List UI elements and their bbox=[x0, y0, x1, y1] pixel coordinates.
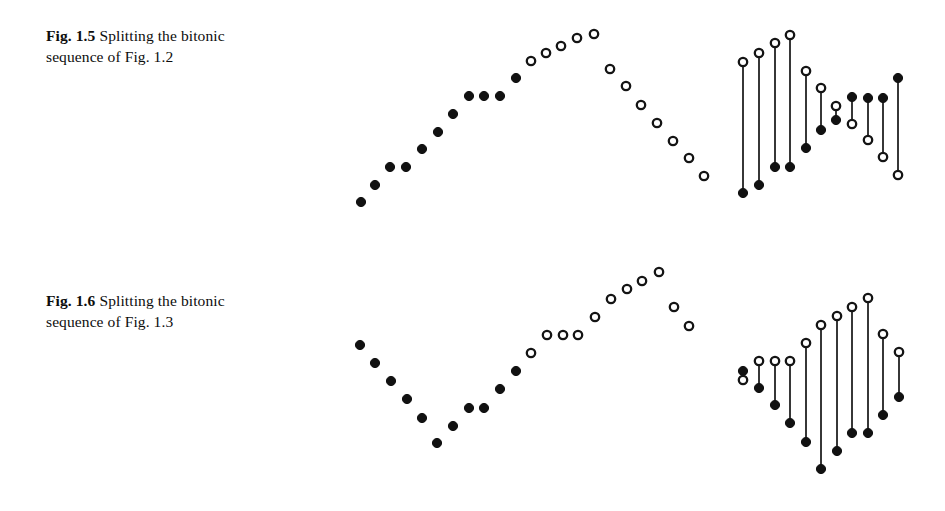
stem-6 bbox=[832, 312, 841, 456]
data-point-filled-0 bbox=[356, 197, 365, 206]
stem-5 bbox=[816, 84, 825, 135]
stem-bottom-marker-10 bbox=[894, 392, 903, 401]
data-point-filled-2 bbox=[385, 162, 394, 171]
stem-bottom-marker-8 bbox=[864, 136, 872, 144]
stem-bottom-marker-9 bbox=[878, 410, 887, 419]
stem-top-marker-1 bbox=[755, 49, 763, 57]
data-point-open-6 bbox=[622, 82, 630, 90]
stem-top-marker-6 bbox=[832, 102, 840, 110]
stem-top-marker-7 bbox=[848, 303, 856, 311]
stem-bottom-marker-5 bbox=[816, 125, 825, 134]
data-point-open-8 bbox=[653, 119, 661, 127]
stem-bottom-marker-4 bbox=[801, 437, 810, 446]
figure-1-6-caption-line-2: sequence of Fig. 1.3 bbox=[46, 313, 173, 330]
stem-9 bbox=[878, 93, 887, 161]
stem-top-marker-2 bbox=[771, 357, 779, 365]
figure-1-6-stem-canvas bbox=[720, 256, 920, 511]
figure-page: Fig. 1.5 Splitting the bitonic sequence … bbox=[0, 0, 945, 511]
stem-bottom-marker-1 bbox=[754, 383, 763, 392]
data-point-open-3 bbox=[574, 331, 582, 339]
figure-1-6-scatter-canvas bbox=[340, 256, 720, 511]
data-point-filled-5 bbox=[448, 421, 457, 430]
figure-1-5-label: Fig. 1.5 bbox=[46, 27, 95, 44]
stem-3 bbox=[785, 357, 794, 428]
stem-bottom-marker-7 bbox=[848, 120, 856, 128]
data-point-filled-7 bbox=[464, 91, 473, 100]
series-open bbox=[527, 30, 708, 180]
data-point-filled-8 bbox=[479, 403, 488, 412]
data-point-filled-6 bbox=[448, 109, 457, 118]
data-point-filled-3 bbox=[401, 162, 410, 171]
figure-1-5-caption-line-1: Splitting the bitonic bbox=[99, 27, 224, 44]
data-point-open-4 bbox=[590, 30, 598, 38]
data-point-open-0 bbox=[527, 349, 535, 357]
data-point-open-9 bbox=[669, 137, 677, 145]
stem-top-marker-0 bbox=[739, 58, 747, 66]
stem-bottom-marker-10 bbox=[894, 171, 902, 179]
figure-1-5-stem-plot bbox=[720, 0, 920, 256]
stem-bottom-marker-5 bbox=[816, 464, 825, 473]
figure-1-5-scatter-plot bbox=[340, 0, 720, 256]
data-point-open-10 bbox=[685, 154, 693, 162]
stem-top-marker-8 bbox=[863, 93, 872, 102]
stem-top-marker-6 bbox=[833, 312, 841, 320]
data-point-filled-7 bbox=[464, 403, 473, 412]
stem-top-marker-1 bbox=[755, 357, 763, 365]
stem-6 bbox=[831, 102, 840, 125]
stem-bottom-marker-6 bbox=[831, 115, 840, 124]
stem-top-marker-10 bbox=[895, 348, 903, 356]
series-filled bbox=[355, 340, 520, 447]
data-point-open-8 bbox=[655, 268, 663, 276]
stem-bottom-marker-0 bbox=[738, 188, 747, 197]
stem-bottom-marker-4 bbox=[801, 143, 810, 152]
stem-top-marker-4 bbox=[802, 339, 810, 347]
stem-top-marker-9 bbox=[879, 330, 887, 338]
stem-top-marker-3 bbox=[786, 357, 794, 365]
data-point-filled-9 bbox=[495, 91, 504, 100]
data-point-open-5 bbox=[607, 295, 615, 303]
stem-0 bbox=[738, 58, 747, 198]
stem-top-marker-4 bbox=[802, 67, 810, 75]
stem-bottom-marker-1 bbox=[754, 180, 763, 189]
data-point-open-6 bbox=[623, 285, 631, 293]
data-point-filled-1 bbox=[370, 358, 379, 367]
stem-9 bbox=[878, 330, 887, 420]
stem-top-marker-9 bbox=[878, 93, 887, 102]
figure-1-5-stem-canvas bbox=[720, 0, 920, 256]
data-point-open-1 bbox=[542, 49, 550, 57]
figure-1-6-stem-plot bbox=[720, 256, 920, 511]
data-point-filled-5 bbox=[433, 127, 442, 136]
stem-4 bbox=[801, 67, 810, 153]
stem-top-marker-2 bbox=[771, 39, 779, 47]
data-point-open-11 bbox=[700, 172, 708, 180]
stem-0 bbox=[738, 366, 747, 384]
stem-3 bbox=[785, 31, 794, 172]
data-point-filled-6 bbox=[432, 438, 441, 447]
stem-bottom-marker-3 bbox=[785, 162, 794, 171]
stem-bottom-marker-3 bbox=[785, 418, 794, 427]
figure-1-6-scatter-plot bbox=[340, 256, 720, 511]
series-open bbox=[527, 268, 693, 357]
figure-1-5-caption-line-2: sequence of Fig. 1.2 bbox=[46, 48, 173, 65]
data-point-filled-10 bbox=[511, 73, 520, 82]
data-point-filled-10 bbox=[511, 366, 520, 375]
data-point-open-7 bbox=[638, 277, 646, 285]
stem-bottom-marker-8 bbox=[863, 428, 872, 437]
stem-2 bbox=[770, 357, 779, 410]
data-point-filled-4 bbox=[417, 413, 426, 422]
data-point-open-2 bbox=[557, 42, 565, 50]
stem-8 bbox=[863, 294, 872, 438]
data-point-open-7 bbox=[637, 101, 645, 109]
stem-bottom-marker-2 bbox=[770, 162, 779, 171]
stem-10 bbox=[893, 73, 902, 179]
data-point-filled-0 bbox=[355, 340, 364, 349]
data-point-open-5 bbox=[606, 65, 614, 73]
figure-1-5-scatter-canvas bbox=[340, 0, 720, 256]
stem-7 bbox=[847, 92, 856, 128]
stem-4 bbox=[801, 339, 810, 447]
stem-top-marker-0 bbox=[738, 366, 747, 375]
series-filled bbox=[356, 73, 520, 206]
data-point-open-3 bbox=[573, 34, 581, 42]
figure-1-6-caption: Fig. 1.6 Splitting the bitonic sequence … bbox=[46, 291, 314, 332]
stem-top-marker-3 bbox=[786, 31, 794, 39]
